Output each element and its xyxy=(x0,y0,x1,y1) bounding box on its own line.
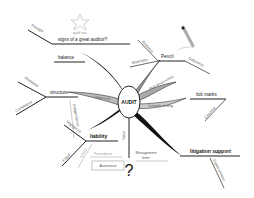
management-label-1: Management xyxy=(136,151,157,155)
title-text: signs of a great auditor? xyxy=(58,37,108,42)
mind-map: AUDIT gold star signs of a great auditor… xyxy=(0,0,254,198)
center-node: AUDIT xyxy=(118,86,140,118)
petal-balance xyxy=(80,52,127,98)
substance-label: Substance xyxy=(188,56,205,67)
pencil-label: Pencil xyxy=(161,54,174,59)
assurance-label: Assurance xyxy=(100,164,117,168)
pencil-icon xyxy=(178,27,194,51)
center-label: AUDIT xyxy=(121,99,136,105)
structure-label: structure xyxy=(50,90,68,95)
petal-litigation xyxy=(132,110,182,156)
objectives-label: Objectives xyxy=(94,95,111,101)
management-label-2: letter xyxy=(142,156,151,160)
balance-label: balance xyxy=(58,55,75,60)
question-mark-icon: ? xyxy=(125,162,134,179)
star-icon xyxy=(71,14,89,30)
controls-label: Controls testing xyxy=(148,104,173,108)
checklist-label: Checklist xyxy=(204,106,217,120)
procedures-label: Procedures xyxy=(94,152,113,156)
tick-marks-label: tick marks xyxy=(196,92,217,97)
value-label: Value xyxy=(122,131,126,140)
prestige-label: Prestige xyxy=(31,23,44,33)
liability-label: liability xyxy=(90,133,107,139)
litigation-label: litigation support xyxy=(190,148,231,154)
star-caption: gold star xyxy=(73,31,88,35)
evidence-label: Evidence xyxy=(141,40,154,54)
